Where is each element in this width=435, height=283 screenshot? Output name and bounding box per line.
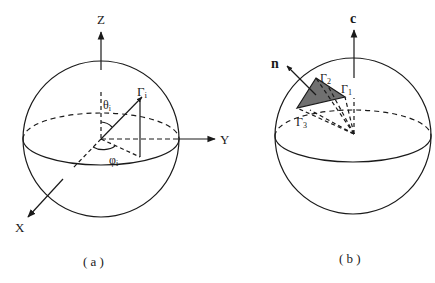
x-axis-arrow — [28, 179, 63, 217]
equator-front-a — [23, 139, 179, 165]
ray-1 — [345, 97, 354, 134]
caption-a: ( a ) — [83, 254, 104, 269]
phi-arc — [93, 146, 115, 150]
svg-text:Γi: Γi — [137, 84, 148, 100]
ray-2 — [316, 78, 354, 134]
theta-arc — [101, 122, 112, 127]
projection-ground — [101, 139, 140, 157]
ray-3b — [310, 110, 354, 134]
panel-b-labels: c n Γ2 Γ1 Γ3 ( b ) — [271, 11, 361, 266]
sphere-b — [275, 58, 431, 214]
equator-front-b — [275, 136, 431, 162]
svg-text:X: X — [15, 220, 25, 235]
svg-text:c: c — [350, 11, 356, 26]
svg-text:Γ3: Γ3 — [296, 115, 307, 130]
svg-text:Z: Z — [97, 12, 105, 27]
svg-text:θi: θi — [103, 98, 112, 113]
panel-a-labels: Z Y X Γi θi φi ( a ) — [15, 12, 230, 269]
svg-text:Y: Y — [220, 132, 230, 147]
svg-text:Γ2: Γ2 — [320, 71, 331, 86]
figure: Z Y X Γi θi φi ( a ) c n Γ2 Γ1 Γ3 ( b ) — [0, 0, 435, 283]
svg-text:n: n — [271, 56, 279, 71]
svg-text:Γ1: Γ1 — [341, 82, 352, 97]
caption-b: ( b ) — [339, 251, 361, 266]
panel-a — [23, 32, 215, 217]
svg-text:φi: φi — [109, 153, 119, 168]
